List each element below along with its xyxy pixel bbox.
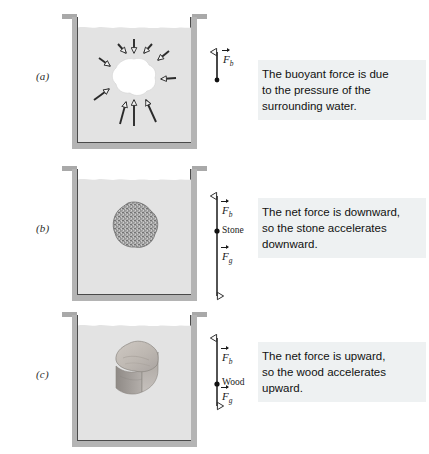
application-point-dot-c <box>214 381 219 386</box>
caption-b-line-2: so the stone accelerates <box>262 220 420 236</box>
force-label-Fb-b: Fb <box>222 204 232 219</box>
stone-shape <box>108 198 164 254</box>
panel-c: (c) <box>0 306 429 452</box>
beaker-a <box>62 14 207 152</box>
beaker-wall-right <box>191 17 197 143</box>
water-cavity-shape <box>112 58 155 95</box>
caption-a-line-2: to the pressure of the <box>262 82 420 98</box>
caption-c-line-1: The net force is upward, <box>262 348 420 364</box>
beaker-c <box>62 312 207 450</box>
force-label-Fb-a: Fb <box>223 53 233 68</box>
force-label-Fg-c: Fg <box>222 390 232 405</box>
caption-a-line-3: surrounding water. <box>262 98 420 114</box>
caption-c-line-2: so the wood accelerates <box>262 364 420 380</box>
body-label-stone: Stone <box>222 225 244 235</box>
beaker-wall-right <box>191 169 197 295</box>
force-diagram-a: Fb <box>206 46 228 88</box>
panel-a: (a) <box>0 8 429 154</box>
force-label-Fb-c: Fb <box>222 351 232 366</box>
force-diagram-b: Fb Stone Fg <box>206 190 228 302</box>
beaker-wall-right <box>191 315 197 441</box>
beaker-floor <box>72 295 197 301</box>
panel-b: (b) <box>0 160 429 306</box>
wood-block-shape <box>106 336 168 416</box>
force-label-Fg-b: Fg <box>222 250 232 265</box>
water-surface-c <box>78 322 191 329</box>
caption-c-line-3: upward. <box>262 380 420 396</box>
force-diagram-c: Fb Wood Fg <box>206 332 228 416</box>
caption-c: The net force is upward, so the wood acc… <box>258 342 426 402</box>
panel-label-c: (c) <box>36 368 49 380</box>
caption-b-line-3: downward. <box>262 236 420 252</box>
caption-b-line-1: The net force is downward, <box>262 204 420 220</box>
panel-label-b: (b) <box>36 222 49 234</box>
beaker-floor <box>72 441 197 447</box>
water-surface-b <box>78 176 191 183</box>
application-point-dot-a <box>215 78 220 83</box>
panel-label-a: (a) <box>36 70 49 82</box>
pressure-arrows-group-a <box>90 38 178 126</box>
water-surface-a <box>78 24 191 31</box>
caption-b: The net force is downward, so the stone … <box>258 198 426 258</box>
application-point-dot-b <box>214 228 219 233</box>
beaker-floor <box>72 143 197 149</box>
beaker-b <box>62 166 207 304</box>
buoyancy-figure: (a) <box>0 0 429 454</box>
caption-a: The buoyant force is due to the pressure… <box>258 60 426 120</box>
caption-a-line-1: The buoyant force is due <box>262 66 420 82</box>
